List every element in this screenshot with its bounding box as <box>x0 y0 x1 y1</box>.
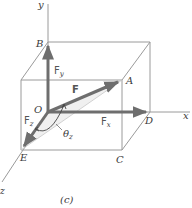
x-axis-label: x <box>183 110 189 121</box>
figure-caption: (c) <box>60 194 74 205</box>
point-a-label: A <box>125 75 133 86</box>
angle-theta-z-label: θz <box>63 128 73 141</box>
point-d-label: D <box>144 115 153 126</box>
point-c-label: C <box>116 154 124 165</box>
point-e-label: E <box>19 152 28 163</box>
point-o-label: O <box>34 104 42 115</box>
point-b-label: B <box>35 38 43 49</box>
vector-fx-label: Fx <box>101 116 111 129</box>
z-axis-label: z <box>0 186 5 196</box>
vector-fz-label: Fz <box>24 115 34 128</box>
vector-f-label: F <box>72 84 79 95</box>
y-axis-label: y <box>37 0 44 10</box>
vector-fy-label: Fy <box>54 65 65 78</box>
force-component-diagram: y x z B A O D E C F Fy Fx Fz θz (c) <box>0 0 192 208</box>
